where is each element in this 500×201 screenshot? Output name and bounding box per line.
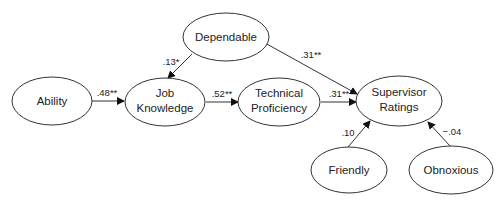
node-dependable: Dependable	[183, 13, 269, 61]
node-friendly: Friendly	[311, 147, 387, 193]
edge-job-knowledge-to-technical-proficiency: .52**	[206, 88, 238, 102]
node-label-line-1: Supervisor	[372, 86, 427, 98]
node-label-line-1: Technical	[255, 87, 303, 99]
edge-label: .31**	[329, 88, 350, 99]
node-label: Ability	[37, 95, 68, 107]
node-label-line-2: Proficiency	[251, 102, 307, 114]
node-label: Friendly	[329, 164, 370, 176]
node-obnoxious: Obnoxious	[409, 146, 493, 194]
node-job-knowledge: Job Knowledge	[125, 78, 205, 126]
path-diagram: .48** .13* .52** .31** .31** .10 −.04 De…	[0, 0, 500, 201]
node-ability: Ability	[12, 77, 92, 125]
edge-label: −.04	[443, 126, 462, 137]
edge-label: .10	[341, 127, 354, 138]
edge-dependable-to-job-knowledge: .13*	[163, 54, 192, 78]
edge-ability-to-job-knowledge: .48**	[92, 87, 124, 101]
edge-label: .13*	[163, 56, 180, 67]
node-label: Obnoxious	[424, 164, 479, 176]
edge-friendly-to-supervisor-ratings: .10	[341, 121, 370, 147]
node-supervisor-ratings: Supervisor Ratings	[356, 76, 442, 126]
node-label-line-2: Ratings	[380, 101, 419, 113]
edge-label: .52**	[212, 88, 233, 99]
edge-label: .31**	[301, 49, 322, 60]
node-technical-proficiency: Technical Proficiency	[238, 78, 320, 126]
edge-obnoxious-to-supervisor-ratings: −.04	[428, 122, 461, 146]
edge-label: .48**	[97, 87, 118, 98]
node-label: Dependable	[195, 31, 257, 43]
node-label-line-1: Job	[156, 87, 175, 99]
node-label-line-2: Knowledge	[137, 102, 194, 114]
